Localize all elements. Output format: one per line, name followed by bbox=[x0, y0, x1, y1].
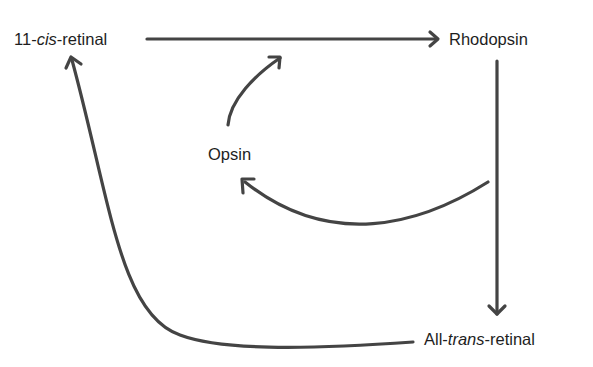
node-rhodopsin: Rhodopsin bbox=[449, 31, 528, 48]
diagram-canvas bbox=[0, 0, 593, 367]
node-suffix: -retinal bbox=[485, 330, 535, 348]
arrow-trans-to-cis bbox=[72, 60, 413, 347]
node-italic: trans bbox=[448, 330, 485, 348]
node-opsin: Opsin bbox=[208, 146, 251, 163]
node-suffix: -retinal bbox=[57, 30, 107, 48]
arrow-opsin-to-rhodopsin bbox=[228, 58, 280, 125]
node-all-trans-retinal: All-trans-retinal bbox=[424, 331, 535, 348]
node-11-cis-retinal: 11-cis-retinal bbox=[14, 31, 107, 48]
node-italic: cis bbox=[37, 30, 57, 48]
node-prefix: 11- bbox=[14, 30, 37, 48]
arrow-rhodopsin-to-opsin bbox=[245, 182, 488, 224]
node-prefix: All- bbox=[424, 330, 448, 348]
